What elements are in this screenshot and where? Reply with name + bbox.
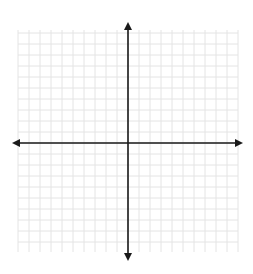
axes — [12, 22, 243, 261]
arrow-up-icon — [124, 22, 132, 30]
arrow-down-icon — [124, 253, 132, 261]
coordinate-plane — [0, 0, 253, 274]
arrow-right-icon — [235, 139, 243, 147]
arrow-left-icon — [12, 139, 20, 147]
